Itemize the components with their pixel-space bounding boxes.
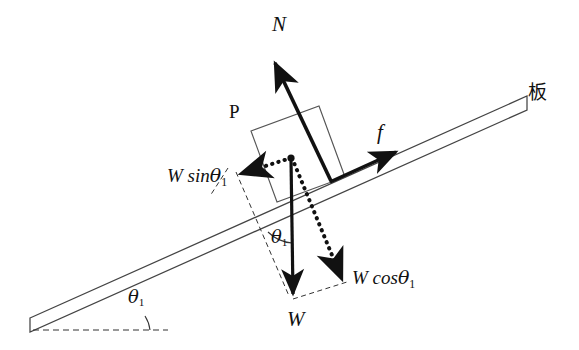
board-label: 板	[528, 83, 547, 102]
incline-arc-path	[145, 316, 150, 330]
weight-parallel-arrow	[243, 158, 291, 173]
weight-parallel-label: W sinθ1	[167, 166, 227, 185]
weight-parallel-subscript: 1	[221, 176, 227, 189]
weight-parallel-theta: θ	[210, 164, 221, 186]
weight-perpendicular-subscript: 1	[409, 278, 415, 291]
weight-perpendicular-vector	[292, 158, 341, 277]
normal-force-arrow	[275, 63, 331, 181]
friction-force-label: f	[377, 122, 383, 143]
weight-vector	[291, 159, 293, 294]
dashed-closure-guide	[293, 282, 347, 299]
weight-perpendicular-theta: θ	[398, 266, 409, 288]
incline-angle-subscript: 1	[139, 296, 145, 308]
weight-parallel-text: W sin	[167, 165, 210, 186]
weight-perpendicular-arrow	[292, 158, 341, 277]
weight-perpendicular-label: W cosθ1	[352, 268, 415, 287]
weight-angle-theta: θ	[271, 226, 282, 247]
weight-label: W	[287, 309, 305, 330]
incline-angle-label: θ1	[128, 288, 144, 306]
inclined-plane-figure: N 板 P f W sinθ1 W cosθ1 W θ1 θ1	[0, 0, 579, 350]
figure-canvas	[0, 0, 579, 350]
block-label: P	[229, 102, 240, 121]
origin-dot	[287, 154, 294, 161]
normal-force-label: N	[272, 14, 286, 35]
weight-parallel-vector	[243, 158, 291, 173]
weight-perpendicular-text: W cos	[352, 267, 398, 288]
weight-angle-subscript: 1	[282, 236, 288, 248]
inclined-board	[30, 96, 527, 332]
incline-angle-arc	[145, 316, 150, 330]
weight-arrow	[291, 159, 293, 294]
weight-angle-label: θ1	[271, 228, 287, 246]
board-body	[30, 96, 527, 332]
force-origin-point	[287, 154, 294, 161]
normal-force-vector	[275, 63, 331, 181]
incline-angle-theta: θ	[128, 286, 139, 307]
